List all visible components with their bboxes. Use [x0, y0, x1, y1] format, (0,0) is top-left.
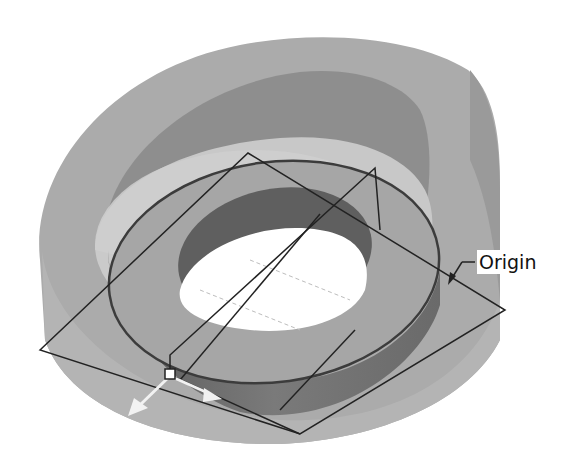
origin-label: Origin	[477, 250, 538, 274]
cad-viewport	[0, 0, 574, 459]
origin-point-icon[interactable]	[165, 369, 175, 379]
